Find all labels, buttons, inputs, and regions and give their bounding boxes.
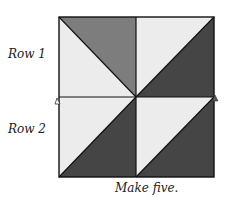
quilt-block-diagram bbox=[0, 0, 229, 202]
caption: Make five. bbox=[115, 181, 178, 195]
quadrant-top-left bbox=[59, 17, 136, 97]
row-1-label: Row 1 bbox=[8, 47, 46, 61]
quadrant-bottom-left bbox=[59, 97, 136, 177]
quadrant-top-right bbox=[136, 17, 214, 97]
row-2-label: Row 2 bbox=[8, 122, 46, 136]
quadrant-bottom-right bbox=[136, 97, 214, 177]
